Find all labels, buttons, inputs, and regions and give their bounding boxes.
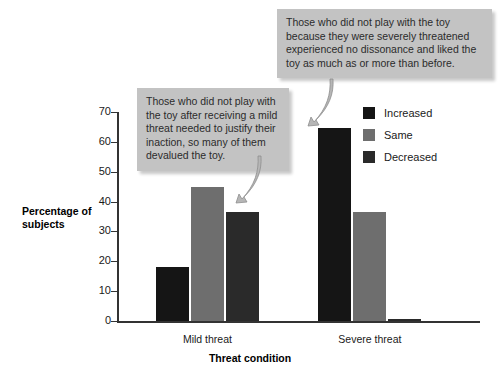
y-tick-mark [111,172,117,173]
y-tick-mark [111,291,117,292]
y-tick-label-text: 10 [83,285,111,296]
annotation-callout-severe: Those who did not play with the toy beca… [277,9,492,78]
y-tick-label: 60 [76,136,111,147]
bar-severe-threat-increased [318,128,351,321]
y-tick-label: 30 [76,225,111,236]
legend-swatch-increased [363,107,375,119]
y-tick-mark [111,142,117,143]
bar-mild-threat-increased [156,267,189,321]
y-tick-mark [111,261,117,262]
legend-item-decreased: Decreased [363,148,483,166]
y-tick-label-text: 50 [83,166,111,177]
y-tick-label: 0 [76,315,111,326]
y-tick-mark [111,321,117,322]
legend-label-decreased: Decreased [384,151,437,163]
bar-mild-threat-decreased [226,212,259,321]
y-tick-mark [111,202,117,203]
legend-item-increased: Increased [363,104,483,122]
bar-mild-threat-same [191,187,224,321]
legend-swatch-same [363,129,375,141]
x-axis-title: Threat condition [0,352,500,364]
bar-severe-threat-decreased [388,319,421,321]
y-tick-label-text: 60 [83,136,111,147]
bar-severe-threat-same [353,212,386,321]
y-tick-label: 20 [76,255,111,266]
y-axis-title-line1: Percentage of [22,205,108,218]
legend-swatch-decreased [363,151,375,163]
y-tick-label: 50 [76,166,111,177]
bar-chart-figure: Percentage of subjects 010203040506070 M… [0,0,500,371]
chart-legend: IncreasedSameDecreased [363,104,483,170]
x-axis-line [117,321,480,323]
y-tick-label-text: 30 [83,225,111,236]
y-tick-label-text: 40 [83,196,111,207]
x-tick-label-mild-threat: Mild threat [147,333,267,345]
y-tick-label-text: 70 [83,106,111,117]
y-tick-label: 10 [76,285,111,296]
y-tick-label: 70 [76,106,111,117]
y-tick-label-text: 20 [83,255,111,266]
y-tick-label-text: 0 [83,315,111,326]
y-tick-label: 40 [76,196,111,207]
x-tick-label-severe-threat: Severe threat [310,333,430,345]
y-tick-mark [111,112,117,113]
legend-item-same: Same [363,126,483,144]
annotation-callout-mild: Those who did not play with the toy afte… [137,88,289,171]
legend-label-same: Same [384,129,413,141]
legend-label-increased: Increased [384,107,432,119]
y-tick-mark [111,231,117,232]
